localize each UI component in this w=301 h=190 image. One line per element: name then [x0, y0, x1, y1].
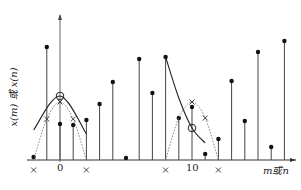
- x-marker-icon: [84, 168, 89, 173]
- stem-dot: [243, 119, 247, 123]
- stem-dot: [137, 57, 141, 61]
- stem-dot: [111, 80, 115, 84]
- stem-dot: [216, 137, 220, 141]
- stem-dot: [71, 123, 75, 127]
- x-axis-label: m或n: [263, 162, 289, 177]
- y-axis-label: x(m) 或 x(n): [5, 67, 20, 126]
- y-axis-arrow-icon: [58, 14, 62, 20]
- stem-dot: [150, 91, 154, 95]
- stem-dot: [269, 145, 273, 149]
- right-solid-curve: [166, 57, 206, 143]
- stem-dot: [177, 116, 181, 120]
- stem-dot: [45, 45, 49, 49]
- x-tick-label-0: 0: [57, 162, 63, 173]
- stem-dot: [97, 102, 101, 106]
- stem-dot: [84, 118, 88, 122]
- x-axis-arrow-icon: [290, 158, 296, 162]
- stem-dot: [203, 152, 207, 156]
- x-marker-icon: [163, 168, 168, 173]
- stem-dot: [229, 79, 233, 83]
- stem-plot: [0, 0, 301, 190]
- stem-dot: [58, 122, 62, 126]
- x-marker-icon: [71, 117, 76, 122]
- stem-dot: [282, 39, 286, 43]
- x-marker-icon: [31, 168, 36, 173]
- x-marker-icon: [203, 116, 208, 121]
- stem-dot: [190, 105, 194, 109]
- stem-dot: [31, 155, 35, 159]
- x-tick-label-10: 10: [186, 162, 199, 173]
- x-marker-icon: [216, 168, 221, 173]
- stem-dot: [256, 50, 260, 54]
- stem-dot: [124, 156, 128, 160]
